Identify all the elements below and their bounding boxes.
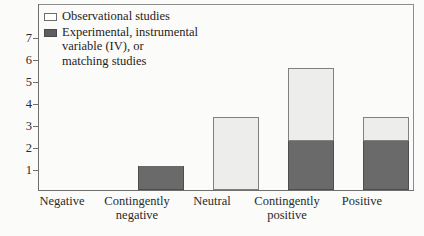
x-tick-label-positive: Positive (316, 194, 408, 208)
y-tick-label-2: 2 (10, 142, 32, 154)
y-tick-label-7: 7 (10, 32, 32, 44)
y-tick-label-5: 5 (10, 76, 32, 88)
bar-group-contingently-negative (138, 166, 184, 190)
bar-segment-experimental (363, 141, 409, 190)
y-tick-label-4: 4 (10, 98, 32, 110)
bar-segment-experimental (138, 166, 184, 190)
light-swatch-icon (44, 13, 57, 21)
dark-swatch-icon (44, 29, 57, 37)
legend: Observational studies Experimental, inst… (44, 9, 198, 69)
legend-entry-experimental: Experimental, instrumental variable (IV)… (44, 25, 198, 69)
y-tick-label-6: 6 (10, 54, 32, 66)
bar-group-contingently-positive (288, 68, 334, 190)
bar-segment-experimental (288, 141, 334, 190)
y-tick-label-1: 1 (10, 164, 32, 176)
bar-group-positive (363, 117, 409, 190)
legend-label-observational: Observational studies (62, 9, 170, 24)
legend-entry-observational: Observational studies (44, 9, 198, 24)
bar-chart-figure: 7 6 5 4 3 2 1 Negative (0, 0, 424, 236)
x-axis-line (38, 190, 414, 191)
y-tick-label-3: 3 (10, 120, 32, 132)
bar-segment-observational (288, 68, 334, 141)
bar-group-neutral (213, 117, 259, 190)
legend-label-experimental: Experimental, instrumental variable (IV)… (62, 25, 198, 69)
bar-segment-observational (363, 117, 409, 141)
bar-segment-observational (213, 117, 259, 190)
